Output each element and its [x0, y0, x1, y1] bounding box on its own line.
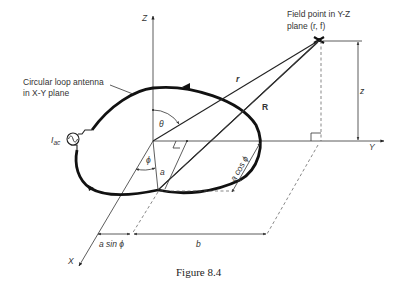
ac-source	[67, 133, 79, 145]
z-dim-label: z	[359, 86, 365, 96]
loop-point-projection	[132, 192, 158, 234]
theta-label: θ	[159, 119, 164, 129]
axes	[79, 16, 384, 266]
figure-8-4-loop-antenna-diagram: Z Y X Iac Circular loop antenna in X-Y p…	[0, 0, 402, 288]
z-axis-label: Z	[141, 13, 148, 23]
feed-lead-top	[78, 130, 92, 134]
y-axis-label: Y	[369, 142, 376, 152]
field-label-line1: Field point in Y-Z	[287, 9, 350, 19]
loop-label-leader	[110, 85, 133, 94]
source-label: Iac	[51, 135, 61, 146]
radius-a	[153, 141, 158, 190]
theta-arc	[153, 110, 179, 124]
vector-R-label: R	[262, 102, 268, 112]
right-angle-marker-origin	[173, 141, 180, 148]
radius-a-label: a	[160, 167, 165, 177]
right-angle-marker-y	[311, 133, 321, 141]
vector-r-label: r	[236, 74, 240, 84]
field-label-line2: plane (r, f)	[287, 21, 325, 31]
b-label: b	[196, 239, 201, 249]
diagram-canvas: Z Y X Iac Circular loop antenna in X-Y p…	[0, 0, 402, 288]
feed-lead-bottom	[71, 145, 77, 150]
vector-r	[153, 41, 318, 141]
loop-label-line1: Circular loop antenna	[23, 77, 104, 87]
a-sin-phi-label: a sin ϕ	[99, 239, 124, 249]
phi-arc	[136, 168, 155, 170]
figure-caption: Figure 8.4	[176, 266, 222, 278]
field-point-projection	[267, 145, 318, 234]
loop-label-line2: in X-Y plane	[23, 88, 69, 98]
x-axis-label: X	[67, 256, 74, 266]
phi-label: ϕ	[146, 155, 151, 165]
